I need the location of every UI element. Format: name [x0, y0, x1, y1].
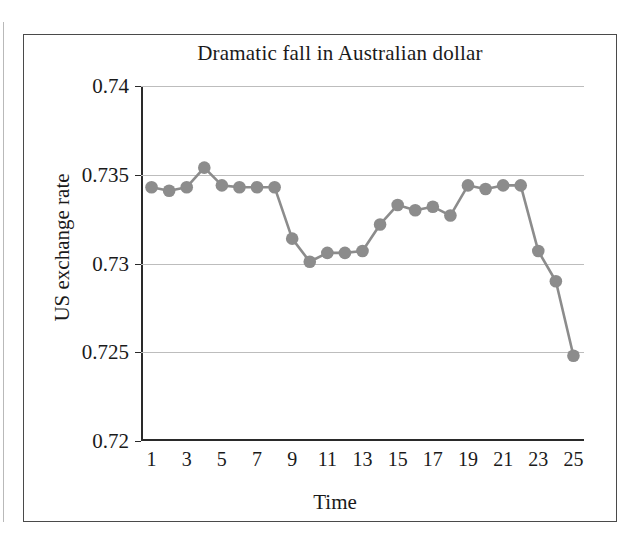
data-point-marker — [479, 183, 492, 196]
data-point-marker — [145, 181, 158, 194]
x-tick-label: 21 — [493, 448, 513, 471]
x-tick-label: 5 — [217, 448, 227, 471]
data-point-marker — [497, 179, 510, 192]
y-tick-label: 0.72 — [92, 429, 129, 454]
data-point-marker — [514, 179, 527, 192]
x-tick-label: 23 — [528, 448, 548, 471]
data-point-marker — [286, 232, 299, 245]
x-tick-label: 25 — [563, 448, 583, 471]
data-point-marker — [268, 181, 281, 194]
data-point-marker — [462, 179, 475, 192]
x-tick-label: 13 — [353, 448, 373, 471]
chart-figure-frame: Dramatic fall in Australian dollar US ex… — [23, 34, 617, 522]
x-axis-title: Time — [24, 490, 616, 515]
y-tick-label: 0.725 — [82, 340, 129, 365]
y-tick-mark — [135, 441, 141, 442]
exchange-rate-series — [141, 86, 584, 441]
data-point-marker — [374, 218, 387, 231]
page-edge-rule — [3, 22, 4, 522]
data-point-marker — [550, 275, 563, 288]
series-line — [152, 168, 574, 356]
data-point-marker — [233, 181, 246, 194]
x-tick-label: 7 — [252, 448, 262, 471]
y-tick-label: 0.73 — [92, 251, 129, 276]
data-point-marker — [356, 245, 369, 258]
data-point-marker — [198, 161, 211, 174]
data-point-marker — [532, 245, 545, 258]
data-point-marker — [427, 200, 440, 213]
data-point-marker — [391, 199, 404, 212]
chart-title: Dramatic fall in Australian dollar — [24, 41, 616, 66]
y-tick-label: 0.735 — [82, 162, 129, 187]
plot-area: 0.720.7250.730.7350.74 13579111315171921… — [141, 86, 584, 441]
x-tick-label: 11 — [318, 448, 337, 471]
data-point-marker — [216, 179, 229, 192]
x-tick-label: 19 — [458, 448, 478, 471]
data-point-marker — [251, 181, 264, 194]
data-point-marker — [567, 350, 580, 363]
data-point-marker — [409, 204, 422, 217]
y-axis-title: US exchange rate — [50, 148, 75, 348]
data-point-marker — [180, 181, 193, 194]
data-point-marker — [339, 247, 352, 260]
x-tick-label: 1 — [147, 448, 157, 471]
data-point-marker — [303, 255, 316, 268]
y-tick-label: 0.74 — [92, 74, 129, 99]
x-tick-label: 15 — [388, 448, 408, 471]
data-point-marker — [444, 209, 457, 222]
data-point-marker — [163, 184, 176, 197]
x-tick-label: 9 — [287, 448, 297, 471]
x-tick-label: 17 — [423, 448, 443, 471]
data-point-marker — [321, 247, 334, 260]
x-tick-label: 3 — [182, 448, 192, 471]
